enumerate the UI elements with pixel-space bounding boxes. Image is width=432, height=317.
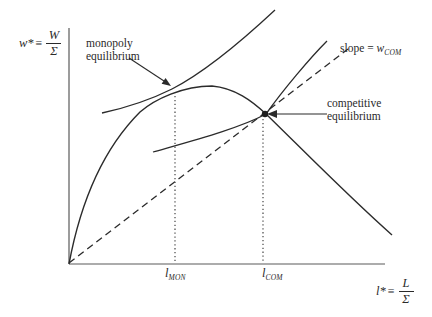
economics-diagram: w* ≡ W Σ l* ≡ L Σ monopoly equilibrium s…: [0, 0, 432, 317]
indifference-curve-lower: [153, 41, 327, 152]
x-axis-numerator: L: [403, 277, 410, 290]
tick-label-lcom: lCOM: [262, 266, 283, 281]
wage-ray-dashed-line: [69, 49, 348, 263]
competitive-equilibrium-point: [262, 111, 268, 117]
slope-subscript: COM: [384, 48, 401, 57]
x-axis-fraction: L Σ: [399, 277, 414, 306]
slope-prefix: slope =: [340, 42, 377, 54]
equiv-sign: ≡: [388, 284, 395, 299]
tick-label-lmon: lMON: [165, 266, 186, 281]
y-axis-denominator: Σ: [50, 45, 57, 58]
x-axis-var: l*: [376, 284, 386, 299]
x-axis-label: l* ≡ L Σ: [376, 277, 414, 306]
lcom-subscript: COM: [265, 273, 282, 282]
y-axis-var: w*: [19, 36, 34, 51]
competitive-equilibrium-annotation: competitive equilibrium: [327, 97, 381, 123]
lmon-subscript: MON: [168, 273, 185, 282]
slope-annotation: slope = wCOM: [340, 42, 401, 56]
competitive-line2: equilibrium: [327, 110, 381, 123]
equiv-sign: ≡: [36, 36, 43, 51]
monopoly-arrowhead-icon: [162, 78, 171, 86]
monopoly-line1: monopoly: [86, 37, 140, 50]
x-axis-denominator: Σ: [402, 293, 409, 306]
competitive-line1: competitive: [327, 97, 381, 110]
monopoly-equilibrium-annotation: monopoly equilibrium: [86, 37, 140, 63]
y-axis-fraction: W Σ: [46, 29, 61, 58]
y-axis-numerator: W: [49, 29, 59, 42]
y-axis-label: w* ≡ W Σ: [19, 29, 61, 58]
monopoly-line2: equilibrium: [86, 50, 140, 63]
